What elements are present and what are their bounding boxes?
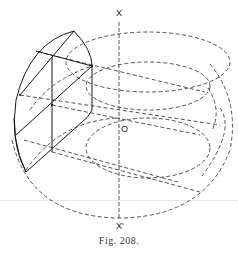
axis-bottom-label: X': [116, 221, 124, 231]
generator-line-5: [24, 140, 178, 182]
generator-line-4: [52, 152, 200, 192]
section-diagonal-3: [26, 122, 82, 172]
point-marker: [19, 94, 21, 96]
bottom-outer-curve: [12, 140, 230, 218]
right-outer-side: [210, 64, 233, 150]
solid-of-revolution-diagram: [0, 0, 238, 253]
section-diagonal-2: [16, 66, 92, 135]
axis-top-label: X: [116, 8, 122, 18]
figure-caption: Fig. 208.: [0, 235, 238, 246]
section-left-arc-2: [14, 118, 26, 172]
point-marker: [91, 65, 93, 67]
point-marker: [51, 104, 53, 106]
right-inner-arc-2: [202, 108, 225, 176]
lower-inner-ellipse: [86, 118, 210, 178]
generator-line-2: [20, 95, 220, 125]
upper-inner-ellipse: [86, 62, 210, 110]
top-outer-ellipse: [66, 32, 230, 92]
section-edge-top: [36, 51, 92, 66]
origin-label: O: [121, 124, 128, 134]
